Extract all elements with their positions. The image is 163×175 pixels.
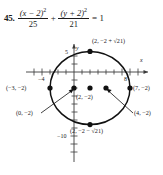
ellipse-graph: x y 5 −4 8 −10 (2, −2 + √21) (−3, −2) (0… — [0, 32, 163, 175]
fraction-term-2: (y + 2)2 21 — [58, 7, 89, 29]
fraction-2-numerator: (y + 2)2 — [58, 7, 89, 18]
y-tick-label-minus-10: −10 — [57, 133, 66, 139]
point-vertex-left — [47, 85, 52, 90]
point-label-focus-left: (0, −2) — [16, 110, 33, 116]
fraction-1-exponent: 2 — [43, 7, 46, 13]
x-tick-label-minus-4: −4 — [38, 76, 44, 82]
point-label-vertex-left: (−3, −2) — [6, 85, 26, 91]
fraction-1-numerator: (x − 2)2 — [18, 7, 49, 18]
fraction-1-numerator-text: (x − 2) — [20, 8, 44, 18]
problem-equation: 45. (x − 2)2 25 + (y + 2)2 21 = 1 — [0, 2, 163, 34]
y-axis-label: y — [76, 45, 79, 51]
problem-number: 45. — [4, 13, 15, 23]
fraction-1-denominator: 25 — [27, 19, 40, 29]
figure-card: 45. (x − 2)2 25 + (y + 2)2 21 = 1 — [0, 0, 163, 175]
equation-equals-one: = 1 — [92, 13, 104, 23]
data-points — [47, 49, 132, 127]
point-vertex-right — [127, 85, 132, 90]
point-label-focus-right: (4, −2) — [134, 110, 151, 116]
plus-operator: + — [51, 13, 56, 23]
fraction-2-exponent: 2 — [84, 7, 87, 13]
point-label-center: (2, −2) — [76, 94, 93, 100]
point-label-co-vertex-top: (2, −2 + √21) — [92, 38, 125, 44]
x-tick-label-8: 8 — [124, 76, 127, 82]
point-label-co-vertex-bottom: (2, −2 − √21) — [70, 128, 103, 134]
fraction-term-1: (x − 2)2 25 — [18, 7, 49, 29]
y-tick-label-5: 5 — [65, 49, 68, 55]
point-label-vertex-right: (7, −2) — [133, 85, 150, 91]
fraction-2-denominator: 21 — [67, 19, 80, 29]
point-center — [87, 85, 92, 90]
point-focus-left — [71, 85, 76, 90]
fraction-2-numerator-text: (y + 2) — [60, 8, 84, 18]
point-focus-right — [103, 85, 108, 90]
x-axis-label: x — [140, 57, 143, 63]
point-co-vertex-top — [87, 49, 92, 54]
graph-svg — [0, 32, 163, 175]
